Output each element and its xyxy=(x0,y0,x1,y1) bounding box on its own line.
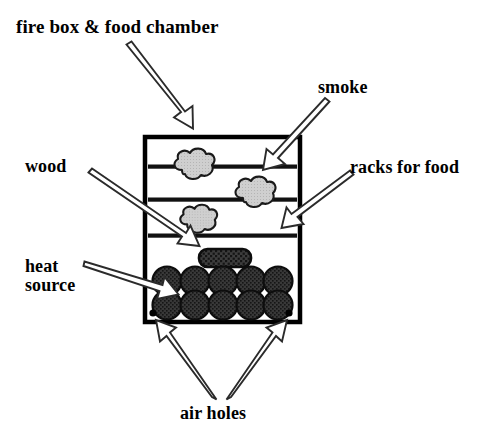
label-air-holes: air holes xyxy=(180,404,246,423)
charcoal-briquette xyxy=(237,291,266,320)
charcoal-briquette xyxy=(181,291,210,320)
label-heat-source: heatsource xyxy=(25,257,75,296)
label-heat-source-line2: source xyxy=(25,275,75,295)
rack-bar-bottom xyxy=(148,234,297,238)
label-wood: wood xyxy=(25,157,66,176)
rack-bar-middle xyxy=(148,198,297,202)
arrow-air-hole-right xyxy=(227,320,288,400)
wood-block xyxy=(199,249,251,267)
air-hole-right xyxy=(285,309,292,316)
arrow-air-hole-left xyxy=(156,320,217,400)
arrow-fire-box xyxy=(127,42,194,129)
label-racks-for-food: racks for food xyxy=(350,158,459,177)
air-hole-left xyxy=(149,309,156,316)
charcoal-briquette xyxy=(209,291,238,320)
label-heat-source-line1: heat xyxy=(25,256,58,276)
label-smoke: smoke xyxy=(318,78,368,97)
diagram-canvas xyxy=(0,0,483,437)
label-fire-box-and-food-chamber: fire box & food chamber xyxy=(16,17,218,38)
wood-shape xyxy=(199,249,251,267)
smoker-diagram: fire box & food chamber smoke wood racks… xyxy=(0,0,483,437)
